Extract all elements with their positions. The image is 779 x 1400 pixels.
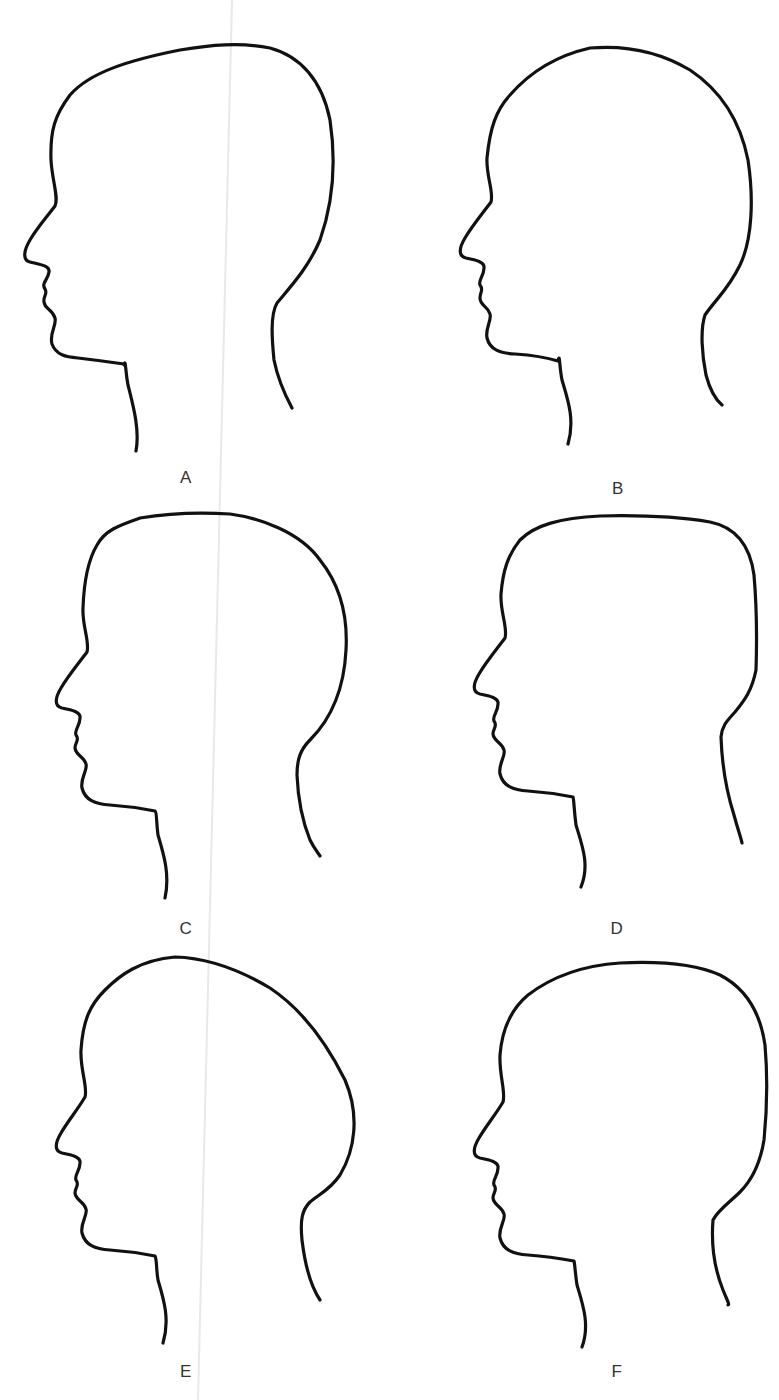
head-profile-d bbox=[474, 516, 756, 887]
profile-label-a: A bbox=[180, 469, 192, 486]
head-profile-c bbox=[56, 513, 346, 898]
profiles-canvas bbox=[0, 0, 779, 1400]
profile-label-d: D bbox=[611, 920, 624, 937]
profile-label-e: E bbox=[180, 1363, 192, 1380]
profile-label-f: F bbox=[612, 1363, 623, 1380]
profile-label-c: C bbox=[180, 920, 193, 937]
head-profile-b bbox=[460, 47, 751, 444]
diagram-sheet: A B C D E F bbox=[0, 0, 779, 1400]
head-profile-e bbox=[56, 957, 354, 1343]
profile-label-b: B bbox=[612, 480, 624, 497]
head-profile-f bbox=[474, 962, 767, 1347]
head-profile-a bbox=[25, 45, 333, 451]
